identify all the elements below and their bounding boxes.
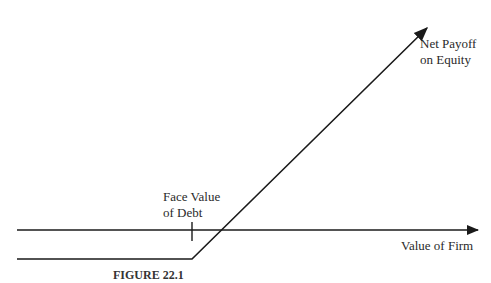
figure-number: FIGURE 22.1 — [113, 268, 184, 282]
figure-caption: FIGURE 22.1 — [113, 268, 184, 283]
net-payoff-label-line2: on Equity — [420, 52, 476, 68]
net-payoff-label: Net Payoff on Equity — [420, 36, 476, 68]
x-axis-label: Value of Firm — [401, 238, 473, 254]
net-payoff-label-line1: Net Payoff — [420, 36, 476, 52]
equity-payoff-line — [17, 28, 427, 259]
face-value-label-line2: of Debt — [163, 205, 220, 221]
face-value-label: Face Value of Debt — [163, 189, 220, 221]
face-value-label-line1: Face Value — [163, 189, 220, 205]
